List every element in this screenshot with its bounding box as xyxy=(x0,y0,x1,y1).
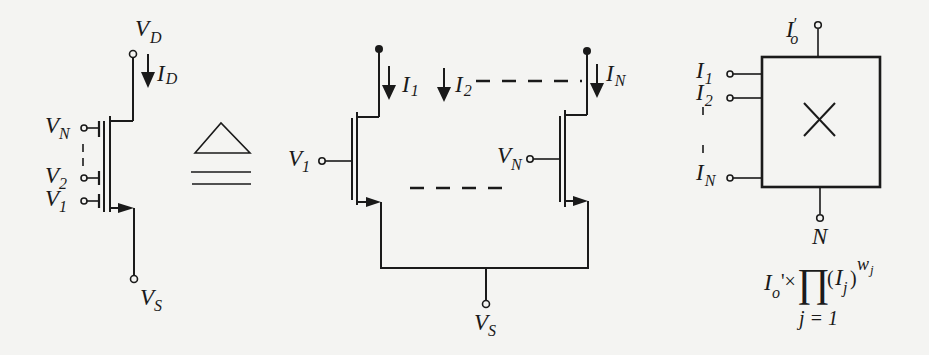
multiplier-block: I′o I1 I2 IN N I o '× ∏ ( I j ) w j j = … xyxy=(695,15,880,330)
v1-label: V1 xyxy=(288,146,310,175)
source-arrow-icon xyxy=(118,203,134,213)
vs-middle-label: VS xyxy=(474,310,496,339)
current-arrow-icon xyxy=(437,87,451,102)
source-arrow-icon xyxy=(366,197,381,207)
product-formula: I o '× ∏ ( I j ) w j j = 1 xyxy=(763,254,874,330)
vs-label: VS xyxy=(140,285,162,314)
drain-current-arrow-icon xyxy=(141,72,155,88)
svg-text:j = 1: j = 1 xyxy=(796,307,838,330)
svg-text:): ) xyxy=(850,267,857,290)
svg-text:j: j xyxy=(841,279,848,297)
vn-label: VN xyxy=(497,143,523,173)
parallel-transistor-array: I1 I2 IN V1 VN VS xyxy=(288,45,627,339)
i2-label: I2 xyxy=(454,72,472,99)
current-arrow-icon xyxy=(590,83,604,98)
n-label: N xyxy=(811,224,829,249)
source-arrow-icon xyxy=(573,196,588,206)
svg-text:w: w xyxy=(857,254,869,274)
source-terminal xyxy=(131,276,138,283)
input-in-label: IN xyxy=(695,160,717,189)
multi-input-transistor: VD ID VS VN V2 V1 xyxy=(45,16,178,314)
svg-text:'×: '× xyxy=(781,270,796,292)
equivalence-icon xyxy=(191,123,251,184)
product-symbol: ∏ xyxy=(797,260,830,305)
vd-label: VD xyxy=(135,16,162,46)
drain-terminal xyxy=(130,51,137,58)
output-io-label: I′o xyxy=(785,15,798,47)
svg-text:(: ( xyxy=(827,267,834,290)
gate-vn-label: VN xyxy=(45,113,71,142)
svg-text:o: o xyxy=(772,284,780,301)
id-label: ID xyxy=(156,61,178,87)
i1-label: I1 xyxy=(401,72,419,99)
current-arrow-icon xyxy=(382,85,396,100)
multi-input-floating-gate-diagram: VD ID VS VN V2 V1 xyxy=(0,0,929,355)
in-label: IN xyxy=(605,61,627,89)
